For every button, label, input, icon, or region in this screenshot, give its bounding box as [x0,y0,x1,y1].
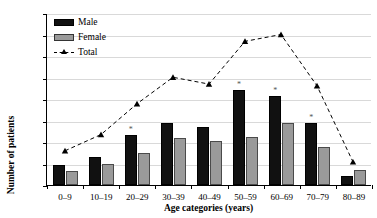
x-tick [119,185,120,189]
x-tick [191,185,192,189]
x-axis-title: Age categories (years) [46,203,371,213]
x-tick-label: 80–89 [343,193,366,202]
x-tick-label: 50–59 [234,193,257,202]
x-tick [372,185,373,189]
x-tick-label: 20–29 [126,193,149,202]
x-tick [336,185,337,189]
x-tick [228,185,229,189]
chart-figure: Number of patients 025507510012515017520… [0,0,377,218]
total-line-marker [314,83,320,89]
legend-item-male: Male [54,15,106,30]
total-line-marker [170,74,176,80]
x-tick [47,185,48,189]
legend-item-female: Female [54,30,106,45]
x-tick [83,185,84,189]
x-tick [155,185,156,189]
x-tick-label: 10–19 [90,193,113,202]
chart-legend: Male Female Total [54,15,106,60]
x-tick-label: 30–39 [162,193,185,202]
x-tick-label: 70–79 [307,193,330,202]
legend-label-female: Female [78,32,106,43]
legend-label-male: Male [78,17,98,28]
legend-item-total: Total [54,45,106,60]
legend-swatch-male-icon [54,19,74,26]
y-axis-title: Number of patients [6,90,16,218]
total-line-marker [278,31,284,37]
total-line-path [65,35,353,162]
total-line-marker [134,101,140,107]
total-line-marker [350,159,356,165]
x-tick [300,185,301,189]
x-tick-label: 60–69 [270,193,293,202]
x-tick-label: 40–49 [198,193,221,202]
total-line-marker [62,148,68,154]
x-tick-label: 0–9 [58,193,72,202]
legend-swatch-total-icon [54,48,74,57]
legend-swatch-female-icon [54,34,74,41]
x-tick [264,185,265,189]
legend-label-total: Total [78,47,97,58]
